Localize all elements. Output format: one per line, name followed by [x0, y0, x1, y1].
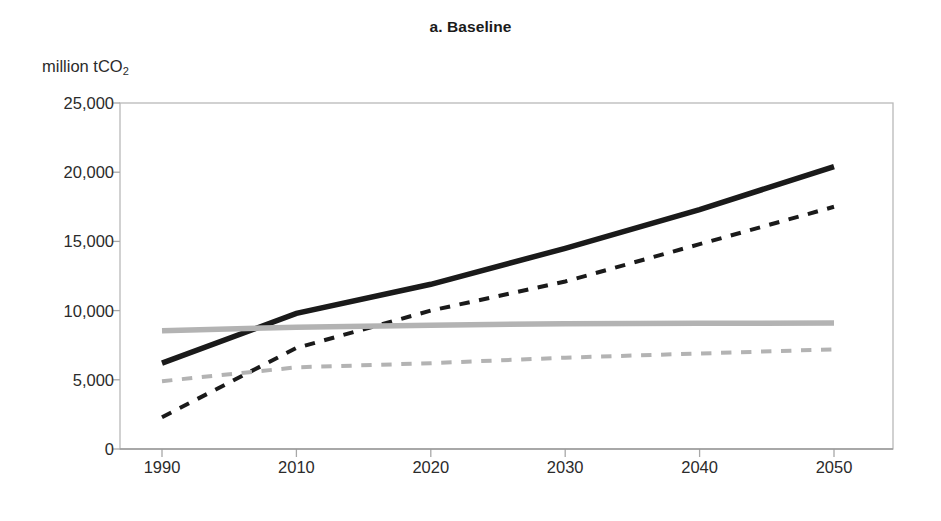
series-gray-dashed — [162, 349, 834, 381]
y-axis-tick-label: 20,000 — [26, 164, 114, 181]
y-axis-tick-label: 5,000 — [26, 372, 114, 389]
x-axis-tick-label: 2040 — [655, 459, 745, 476]
y-axis-tick-label: 15,000 — [26, 233, 114, 250]
axes — [113, 103, 893, 457]
y-axis-tick-label: 10,000 — [26, 302, 114, 319]
plot-area: 05,00010,00015,00020,00025,000 199020102… — [0, 0, 941, 521]
x-axis-tick-label: 2050 — [789, 459, 879, 476]
figure: a. Baseline million tCO2 05,00010,00015,… — [0, 0, 941, 521]
series-black-solid — [162, 167, 834, 364]
data-series-group — [162, 167, 834, 418]
x-axis-tick-label: 1990 — [117, 459, 207, 476]
series-black-dashed — [162, 207, 834, 417]
chart-canvas — [0, 0, 941, 521]
x-axis-tick-label: 2030 — [520, 459, 610, 476]
x-axis-tick-label: 2020 — [386, 459, 476, 476]
plot-frame — [120, 103, 893, 449]
x-axis-tick-label: 2010 — [251, 459, 341, 476]
y-axis-tick-label: 25,000 — [26, 95, 114, 112]
y-axis-tick-label: 0 — [26, 441, 114, 458]
